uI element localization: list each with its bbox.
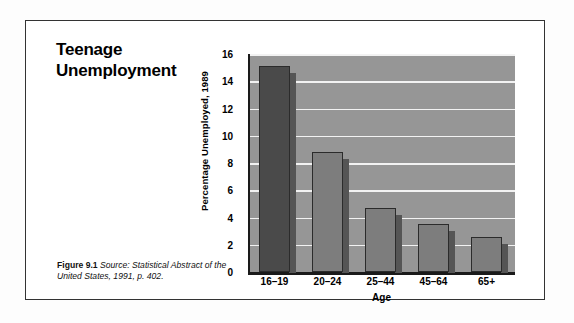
y-axis-tick-label: 16 [213, 49, 233, 60]
y-axis-tick-label: 4 [213, 212, 233, 223]
x-axis-tick-labels: 16–1920–2425–4445–6465+ [248, 276, 515, 290]
x-axis-tick-label: 25–44 [354, 276, 407, 287]
y-axis-tick-label: 6 [213, 185, 233, 196]
x-axis-tick-label: 16–19 [248, 276, 301, 287]
y-axis-tick-labels: 0246810121416 [213, 54, 233, 272]
bar[interactable] [471, 237, 502, 272]
bar-group [356, 54, 409, 272]
bar[interactable] [365, 208, 396, 272]
bar[interactable] [312, 152, 343, 272]
page-title: Teenage Unemployment [56, 39, 206, 82]
bar-shadow [342, 159, 349, 273]
y-axis-title: Percentage Unemployed, 1989 [199, 35, 213, 247]
y-axis-tick-label: 0 [213, 267, 233, 278]
bar-shadow [501, 244, 508, 273]
bar[interactable] [259, 66, 290, 272]
bar-group [409, 54, 462, 272]
bar-chart: Percentage Unemployed, 1989 024681012141… [191, 35, 535, 287]
bar-shadow [395, 215, 402, 273]
y-axis-tick-label: 10 [213, 130, 233, 141]
figure-caption-label: Figure 9.1 [57, 260, 98, 270]
y-axis-tick-label: 12 [213, 103, 233, 114]
figure-title-line-1: Teenage [56, 39, 206, 60]
figure-title-line-2: Unemployment [56, 60, 206, 81]
bar-shadow [289, 73, 296, 273]
x-axis-tick-label: 45–64 [407, 276, 460, 287]
figure-frame: Teenage Unemployment Figure 9.1 Source: … [25, 20, 545, 300]
bar-shadow [448, 231, 455, 273]
y-axis-tick-label: 8 [213, 158, 233, 169]
bar[interactable] [418, 224, 449, 272]
x-axis-title: Age [248, 292, 515, 303]
plot-area [248, 54, 515, 275]
bar-group [462, 54, 515, 272]
bars-layer [250, 54, 515, 272]
y-axis-tick-label: 14 [213, 76, 233, 87]
bar-group [250, 54, 303, 272]
x-axis-tick-label: 65+ [460, 276, 513, 287]
y-axis-tick-label: 2 [213, 239, 233, 250]
x-axis-tick-label: 20–24 [301, 276, 354, 287]
bar-group [303, 54, 356, 272]
